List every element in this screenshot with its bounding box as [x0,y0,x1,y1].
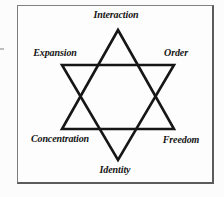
label-interaction: Interaction [93,10,138,20]
label-identity: Identity [100,165,131,175]
label-order: Order [164,48,188,58]
label-concentration: Concentration [31,134,89,144]
hexagram-figure: Interaction Expansion Order Concentratio… [0,0,224,197]
downward-triangle [62,65,174,160]
label-freedom: Freedom [163,135,200,145]
label-expansion: Expansion [33,48,77,58]
upward-triangle [62,30,174,129]
